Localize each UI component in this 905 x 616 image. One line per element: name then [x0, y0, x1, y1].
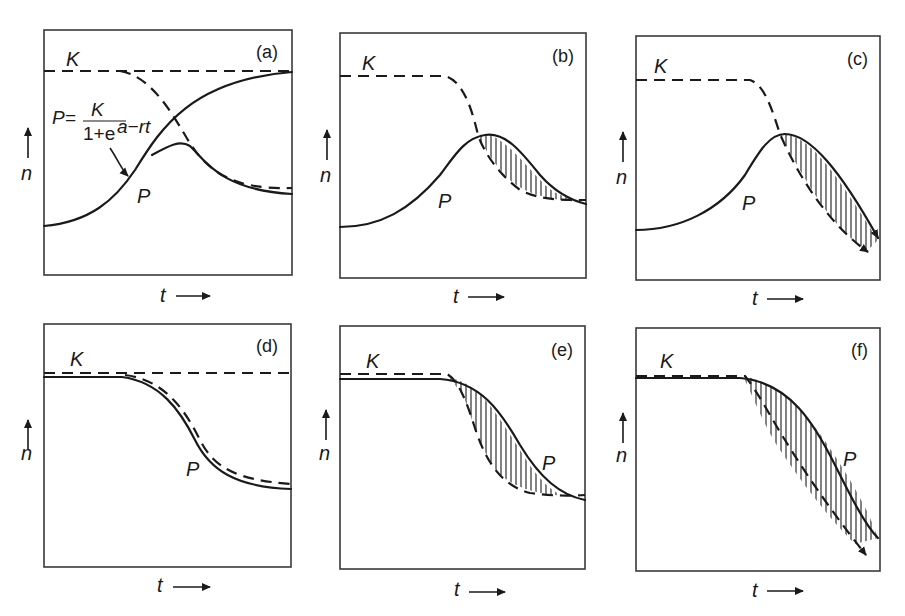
x-axis-label: t — [157, 574, 164, 596]
p-curve — [340, 135, 586, 227]
equation-exponent: a−rt — [117, 116, 151, 137]
equation-lhs: P= — [52, 107, 76, 128]
hatched-region — [478, 134, 586, 203]
hatched-region — [447, 378, 565, 496]
panel-tag: (e) — [551, 340, 573, 360]
p-label: P — [438, 190, 452, 212]
k-label: K — [362, 52, 377, 74]
x-axis-label: t — [454, 578, 461, 600]
x-axis-label: t — [160, 284, 167, 306]
panel-tag: (c) — [847, 49, 868, 69]
panel-a: (a) K P= K 1+e a−rt P n t — [21, 30, 292, 306]
p-label: P — [742, 192, 756, 214]
y-axis-label: n — [616, 166, 627, 188]
panel-tag: (b) — [552, 46, 574, 66]
k-declining-line — [125, 375, 291, 484]
panel-tag: (d) — [256, 336, 278, 356]
p-tracking-curve — [152, 143, 292, 194]
equation-numerator: K — [91, 99, 105, 120]
figure-canvas: (a) K P= K 1+e a−rt P n t (b) K P n t — [0, 0, 905, 616]
x-axis-label: t — [752, 287, 759, 309]
y-axis-label: n — [319, 442, 330, 464]
y-axis-label: n — [616, 444, 627, 466]
k-line — [340, 374, 585, 496]
k-label: K — [366, 350, 381, 372]
panel-c: (c) K P n t — [616, 36, 880, 309]
panel-frame — [44, 30, 292, 275]
equation-pointer-arrow — [110, 148, 128, 176]
y-axis-label: n — [21, 442, 32, 464]
panel-e: (e) K P n t — [319, 326, 585, 600]
hatched-region — [743, 376, 878, 544]
p-curve — [340, 379, 585, 500]
panel-b: (b) K P n t — [320, 33, 586, 307]
panel-tag: (f) — [851, 340, 868, 360]
panel-d: (d) K P n t — [21, 324, 291, 596]
logistic-curve — [44, 72, 292, 226]
panel-tag: (a) — [256, 42, 278, 62]
p-curve — [44, 377, 291, 489]
k-label: K — [654, 55, 669, 77]
p-label: P — [542, 452, 556, 474]
k-label: K — [660, 350, 675, 372]
panel-f: (f) K P n t — [616, 328, 880, 601]
p-label: P — [843, 448, 857, 470]
x-axis-label: t — [453, 285, 460, 307]
k-label: K — [66, 48, 81, 70]
k-line — [340, 76, 586, 200]
equation-denominator: 1+e — [83, 123, 115, 144]
p-label: P — [137, 185, 151, 207]
y-axis-label: n — [320, 164, 331, 186]
k-label: K — [70, 348, 85, 370]
panel-frame — [636, 36, 880, 280]
panel-frame — [340, 33, 586, 278]
x-axis-label: t — [752, 579, 759, 601]
y-axis-label: n — [21, 162, 32, 184]
p-label: P — [186, 458, 200, 480]
hatched-region — [780, 134, 878, 250]
